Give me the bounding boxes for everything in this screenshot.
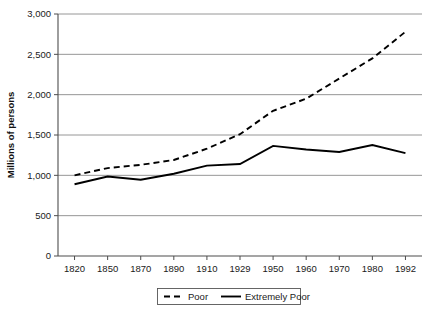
x-tick-labels: 1820185018701890191019291950196019701980… (64, 263, 416, 274)
x-tick-label: 1870 (130, 263, 151, 274)
x-tick-label: 1820 (64, 263, 85, 274)
y-tick-label: 500 (35, 210, 51, 221)
chart-container: 05001,0001,5002,0002,5003,000 1820185018… (0, 0, 438, 313)
line-chart: 05001,0001,5002,0002,5003,000 1820185018… (0, 0, 438, 313)
x-tick-label: 1950 (263, 263, 284, 274)
x-tick-label: 1910 (196, 263, 217, 274)
y-tick-labels: 05001,0001,5002,0002,5003,000 (27, 8, 51, 261)
x-tick-label: 1980 (362, 263, 383, 274)
y-tick-label: 3,000 (27, 8, 51, 19)
x-tick-label: 1960 (296, 263, 317, 274)
x-tick-label: 1970 (329, 263, 350, 274)
x-tick-label: 1890 (163, 263, 184, 274)
x-tick-label: 1929 (229, 263, 250, 274)
x-tick-label: 1992 (395, 263, 416, 274)
chart-legend: Poor Extremely Poor (158, 289, 310, 305)
x-tick-label: 1850 (97, 263, 118, 274)
legend-label-poor: Poor (188, 291, 208, 302)
y-axis-title: Millions of persons (5, 92, 16, 179)
y-tick-label: 2,000 (27, 89, 51, 100)
y-tick-label: 1,500 (27, 129, 51, 140)
x-tickmarks (75, 256, 406, 260)
y-tick-label: 2,500 (27, 49, 51, 60)
legend-label-extremely-poor: Extremely Poor (245, 291, 310, 302)
y-tickmarks (54, 14, 58, 256)
y-tick-label: 0 (46, 250, 51, 261)
y-tick-label: 1,000 (27, 170, 51, 181)
